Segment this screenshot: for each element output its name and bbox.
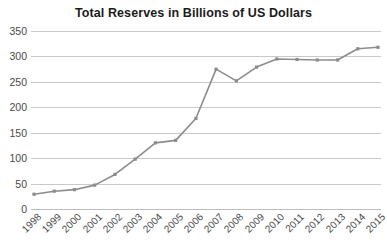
- x-tick-label-2004: 2004: [142, 212, 165, 235]
- y-tick-label-200: 200: [9, 102, 27, 113]
- data-point-1999: [53, 190, 56, 193]
- data-point-2003: [134, 158, 137, 161]
- y-tick-label-250: 250: [9, 77, 27, 88]
- x-tick-label-2003: 2003: [122, 212, 145, 235]
- x-tick-label-2013: 2013: [324, 212, 347, 235]
- x-axis-labels: 1998199920002001200220032004200520062007…: [31, 209, 381, 252]
- plot-area: [31, 31, 381, 209]
- series-markers: [32, 46, 379, 196]
- data-point-2013: [336, 58, 339, 61]
- data-point-2014: [356, 47, 359, 50]
- data-point-2002: [113, 173, 116, 176]
- y-tick-label-350: 350: [9, 26, 27, 37]
- data-point-2010: [275, 57, 278, 60]
- data-point-2008: [235, 79, 238, 82]
- x-tick-label-1998: 1998: [20, 212, 43, 235]
- y-tick-label-100: 100: [9, 153, 27, 164]
- x-tick-label-2001: 2001: [81, 212, 104, 235]
- y-tick-label-300: 300: [9, 51, 27, 62]
- x-tick-label-2014: 2014: [344, 212, 367, 235]
- x-tick-label-2006: 2006: [182, 212, 205, 235]
- y-tick-label-0: 0: [21, 204, 27, 215]
- x-tick-label-2007: 2007: [203, 212, 226, 235]
- data-point-1998: [32, 193, 35, 196]
- x-tick-label-2008: 2008: [223, 212, 246, 235]
- data-point-2005: [174, 139, 177, 142]
- data-point-2001: [93, 184, 96, 187]
- y-tick-label-150: 150: [9, 127, 27, 138]
- chart-title: Total Reserves in Billions of US Dollars: [0, 6, 387, 20]
- x-tick-label-2009: 2009: [243, 212, 266, 235]
- data-point-2000: [73, 188, 76, 191]
- chart-container: Total Reserves in Billions of US Dollars…: [0, 0, 387, 252]
- x-tick-label-2015: 2015: [364, 212, 387, 235]
- x-tick-label-2011: 2011: [283, 212, 306, 235]
- data-point-2009: [255, 66, 258, 69]
- x-tick-label-2012: 2012: [304, 212, 327, 235]
- data-point-2006: [194, 117, 197, 120]
- series-line-total-reserves: [31, 31, 381, 209]
- x-tick-label-2005: 2005: [162, 212, 185, 235]
- data-point-2007: [215, 68, 218, 71]
- x-tick-label-2000: 2000: [61, 212, 84, 235]
- y-tick-label-50: 50: [15, 178, 27, 189]
- x-tick-label-1999: 1999: [41, 212, 64, 235]
- series-polyline: [34, 47, 378, 194]
- x-tick-label-2010: 2010: [263, 212, 286, 235]
- data-point-2015: [376, 46, 379, 49]
- x-tick-label-2002: 2002: [101, 212, 124, 235]
- data-point-2012: [316, 58, 319, 61]
- y-axis-labels: 050100150200250300350: [0, 31, 27, 209]
- data-point-2011: [295, 58, 298, 61]
- data-point-2004: [154, 141, 157, 144]
